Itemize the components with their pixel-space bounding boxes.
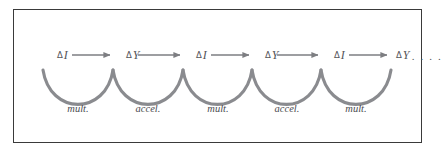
node-label: ΔI	[196, 48, 207, 63]
node-label: ΔY	[265, 48, 279, 63]
arc-label: accel.	[136, 103, 161, 114]
variable-symbol: Y	[132, 48, 140, 62]
arc-label: mult.	[207, 103, 228, 114]
figure-border-frame	[13, 9, 422, 143]
arc-label: mult.	[345, 103, 366, 114]
node-label: ΔI	[57, 48, 68, 63]
continuation-ellipsis: . . . .	[410, 50, 442, 62]
arc-label: accel.	[275, 103, 300, 114]
node-label: ΔY	[126, 48, 140, 63]
arc-label: mult.	[67, 103, 88, 114]
variable-symbol: Y	[402, 48, 410, 62]
node-label: ΔI	[334, 48, 345, 63]
variable-symbol: I	[202, 48, 207, 62]
node-label: ΔY. . . .	[396, 48, 442, 63]
variable-symbol: I	[63, 48, 68, 62]
variable-symbol: Y	[271, 48, 279, 62]
variable-symbol: I	[340, 48, 345, 62]
